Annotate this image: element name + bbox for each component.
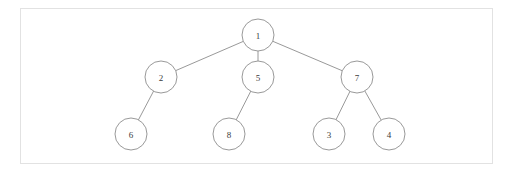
tree-edge-7-4	[365, 91, 381, 120]
tree-node-label-4: 4	[387, 130, 392, 140]
tree-nodes-group: 12576834	[115, 19, 405, 150]
tree-node-label-6: 6	[129, 130, 134, 140]
tree-edge-1-2	[176, 41, 244, 70]
tree-node-label-3: 3	[327, 130, 332, 140]
tree-node-3[interactable]: 3	[313, 118, 345, 150]
tree-diagram-canvas: 12576834	[0, 0, 509, 175]
tree-node-4[interactable]: 4	[373, 118, 405, 150]
tree-edge-7-3	[336, 91, 350, 119]
tree-node-label-1: 1	[256, 31, 261, 41]
tree-node-1[interactable]: 1	[242, 19, 274, 51]
tree-node-label-5: 5	[256, 73, 261, 83]
tree-node-label-8: 8	[227, 130, 232, 140]
tree-node-5[interactable]: 5	[242, 61, 274, 93]
tree-node-2[interactable]: 2	[145, 61, 177, 93]
tree-node-7[interactable]: 7	[341, 61, 373, 93]
tree-node-label-2: 2	[159, 73, 164, 83]
tree-node-8[interactable]: 8	[213, 118, 245, 150]
tree-node-6[interactable]: 6	[115, 118, 147, 150]
tree-edge-5-8	[236, 91, 250, 119]
tree-edge-1-7	[273, 41, 343, 71]
figure-root: 12576834	[0, 0, 509, 175]
tree-edge-2-6	[138, 91, 153, 120]
tree-node-label-7: 7	[355, 73, 360, 83]
